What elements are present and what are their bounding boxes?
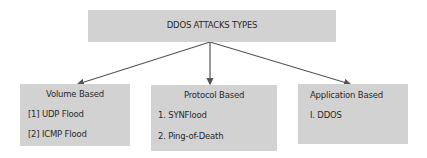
category-item: 2. Ping-of-Death — [158, 131, 223, 141]
root-node: DDOS ATTACKS TYPES — [88, 10, 336, 42]
category-title: Protocol Based — [151, 90, 277, 100]
category-application-based: Application Based I. DDOS — [298, 84, 408, 144]
category-item: [1] UDP Flood — [28, 109, 84, 119]
root-label: DDOS ATTACKS TYPES — [88, 20, 336, 30]
category-title: Volume Based — [20, 89, 130, 99]
category-title: Application Based — [310, 90, 383, 100]
category-item: I. DDOS — [310, 110, 342, 120]
category-item: [2] ICMP Flood — [28, 129, 87, 139]
category-protocol-based: Protocol Based 1. SYNFlood 2. Ping-of-De… — [151, 85, 277, 151]
category-item: 1. SYNFlood — [158, 110, 207, 120]
category-volume-based: Volume Based [1] UDP Flood [2] ICMP Floo… — [20, 84, 130, 146]
